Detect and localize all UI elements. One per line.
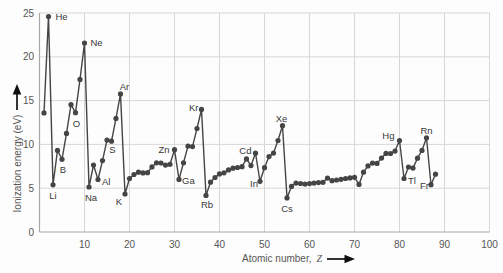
- data-point-In: [257, 179, 262, 184]
- element-label-Kr: Kr: [189, 102, 199, 113]
- data-point-Y: [212, 175, 217, 180]
- data-point-Te: [271, 151, 276, 156]
- element-label-Cs: Cs: [281, 203, 293, 214]
- element-label-S: S: [109, 144, 115, 155]
- chart-canvas: 1020304050607080901000510152025HeLiBONeN…: [0, 0, 503, 273]
- element-label-Ga: Ga: [182, 175, 195, 186]
- data-point-P: [104, 138, 109, 143]
- data-point-Re: [374, 161, 379, 166]
- data-point-Br: [194, 126, 199, 131]
- data-point-Rn: [424, 135, 429, 140]
- x-tick-label: 10: [79, 239, 91, 250]
- data-point-W: [370, 161, 375, 166]
- data-point-Os: [379, 156, 384, 161]
- data-point-Yb: [352, 175, 357, 180]
- data-point-Au: [392, 149, 397, 154]
- data-point-He: [46, 14, 51, 19]
- x-axis-title: Atomic number, Z: [242, 253, 355, 264]
- x-tick-label: 30: [169, 239, 181, 250]
- data-point-H: [41, 110, 46, 115]
- data-point-Pd: [244, 156, 249, 161]
- data-point-Eu: [320, 180, 325, 185]
- data-point-Ra: [433, 172, 438, 177]
- data-point-Hg: [397, 138, 402, 143]
- data-point-Ce: [298, 181, 303, 186]
- data-point-Cu: [167, 162, 172, 167]
- data-point-Ti: [136, 170, 141, 175]
- element-label-Cd: Cd: [239, 145, 251, 156]
- data-point-Nb: [221, 170, 226, 175]
- data-point-Ir: [383, 151, 388, 156]
- data-point-Be: [55, 148, 60, 153]
- data-point-Ru: [235, 165, 240, 170]
- data-point-At: [419, 148, 424, 153]
- y-axis-title-label: Ionization energy (eV): [12, 115, 23, 213]
- element-label-Fr: Fr: [420, 180, 429, 191]
- x-tick-label: 20: [124, 239, 136, 250]
- data-point-As: [185, 144, 190, 149]
- data-point-Se: [190, 144, 195, 149]
- data-point-S: [109, 139, 114, 144]
- element-label-Hg: Hg: [382, 130, 394, 141]
- y-tick-label: 0: [28, 227, 34, 238]
- data-point-Mn: [149, 164, 154, 169]
- x-tick-label: 50: [259, 239, 271, 250]
- x-tick-label: 90: [439, 239, 451, 250]
- data-point-Bi: [410, 166, 415, 171]
- data-point-Mg: [91, 162, 96, 167]
- data-point-Cr: [145, 170, 150, 175]
- data-point-Sr: [208, 180, 213, 185]
- data-point-Pt: [388, 151, 393, 156]
- data-point-Ge: [181, 160, 186, 165]
- data-point-Ne: [82, 41, 87, 46]
- data-point-Fe: [154, 160, 159, 165]
- data-point-Gd: [325, 176, 330, 181]
- x-tick-label: 60: [304, 239, 316, 250]
- data-point-Zr: [217, 171, 222, 176]
- data-point-Pb: [406, 164, 411, 169]
- data-point-Rh: [239, 164, 244, 169]
- data-line: [44, 17, 436, 198]
- element-label-Na: Na: [85, 192, 98, 203]
- data-point-Cl: [113, 116, 118, 121]
- data-point-Tm: [347, 175, 352, 180]
- element-label-Li: Li: [49, 190, 56, 201]
- element-label-Tl: Tl: [408, 175, 416, 186]
- data-point-Sm: [316, 180, 321, 185]
- element-label-O: O: [73, 118, 80, 129]
- x-tick-label: 40: [214, 239, 226, 250]
- data-point-Cd: [253, 151, 258, 156]
- data-point-Lu: [356, 182, 361, 187]
- data-point-Tb: [329, 178, 334, 183]
- x-axis-arrow-icon: [327, 254, 355, 264]
- data-point-Tc: [230, 166, 235, 171]
- data-point-Al: [95, 177, 100, 182]
- data-point-Xe: [280, 123, 285, 128]
- x-tick-label: 80: [394, 239, 406, 250]
- element-label-He: He: [56, 11, 68, 22]
- data-point-N: [68, 102, 73, 107]
- data-point-B: [59, 157, 64, 162]
- data-point-V: [140, 170, 145, 175]
- data-point-Hf: [361, 170, 366, 175]
- y-tick-label: 5: [28, 183, 34, 194]
- element-label-Xe: Xe: [276, 113, 288, 124]
- element-label-Zn: Zn: [158, 144, 169, 155]
- data-point-Dy: [334, 177, 339, 182]
- data-point-I: [275, 138, 280, 143]
- data-point-Sc: [131, 172, 136, 177]
- data-point-Kr: [199, 107, 204, 112]
- data-point-Na: [86, 184, 91, 189]
- data-point-Er: [343, 176, 348, 181]
- data-point-Si: [100, 158, 105, 163]
- element-label-K: K: [116, 196, 123, 207]
- element-label-Rb: Rb: [201, 199, 213, 210]
- data-point-Co: [158, 160, 163, 165]
- data-point-Mo: [226, 167, 231, 172]
- data-point-Po: [415, 156, 420, 161]
- data-point-Li: [50, 182, 55, 187]
- element-label-Rn: Rn: [420, 125, 432, 136]
- x-axis-variable: Z: [316, 253, 322, 264]
- data-point-Pr: [302, 182, 307, 187]
- y-axis-arrow-icon: [12, 84, 22, 110]
